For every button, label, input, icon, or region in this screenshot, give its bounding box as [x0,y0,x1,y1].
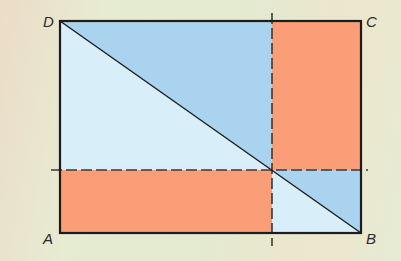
top-right-rectangle [272,21,361,170]
vertex-label-c: C [366,14,377,29]
rectangle-diagram [0,0,401,261]
diagram-stage: D C A B [0,0,401,261]
vertex-label-b: B [366,231,376,246]
vertex-label-d: D [43,14,54,29]
bottom-left-rectangle [60,170,272,233]
vertex-label-a: A [43,231,53,246]
